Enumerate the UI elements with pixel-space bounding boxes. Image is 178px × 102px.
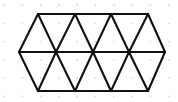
grid-dot	[21, 41, 23, 43]
grid-dot	[113, 22, 115, 24]
grid-dot	[113, 77, 115, 79]
grid-dot	[150, 41, 152, 43]
lower-diagonal-1	[38, 52, 56, 91]
grid-dot	[95, 41, 97, 43]
lower-right-outer-edge	[148, 52, 165, 91]
grid-dot	[168, 77, 170, 79]
grid-dot	[21, 96, 23, 98]
grid-dot	[168, 22, 170, 24]
grid-dot	[3, 4, 5, 6]
grid-dot	[3, 59, 5, 61]
grid-dot	[150, 77, 152, 79]
upper-diagonal-4	[93, 14, 111, 52]
grid-dot	[131, 59, 133, 61]
grid-dot	[168, 96, 170, 98]
grid-dot	[40, 4, 42, 6]
grid-dot	[168, 4, 170, 6]
grid-dot	[40, 59, 42, 61]
grid-dot	[113, 59, 115, 61]
upper-diagonal-5	[111, 14, 129, 52]
grid-dot	[95, 22, 97, 24]
grid-dot	[76, 22, 78, 24]
grid-dot	[131, 41, 133, 43]
grid-dot	[131, 4, 133, 6]
grid-dot	[113, 4, 115, 6]
grid-dot	[95, 59, 97, 61]
grid-dot	[3, 41, 5, 43]
grid-dot	[58, 4, 60, 6]
grid-dot	[150, 96, 152, 98]
grid-dot	[3, 96, 5, 98]
lower-diagonal-4	[93, 52, 111, 91]
grid-dot	[76, 59, 78, 61]
grid-dot	[58, 59, 60, 61]
triangle-tiling-shape	[0, 0, 178, 102]
grid-dot	[95, 77, 97, 79]
grid-dot	[131, 22, 133, 24]
grid-dot	[40, 41, 42, 43]
upper-diagonal-2	[56, 14, 75, 52]
grid-dot	[40, 77, 42, 79]
grid-dot	[3, 77, 5, 79]
grid-dot	[3, 22, 5, 24]
lower-diagonal-3	[75, 52, 93, 91]
lower-diagonal-6	[129, 52, 148, 91]
grid-dot	[40, 96, 42, 98]
grid-dot	[131, 96, 133, 98]
grid-dot	[21, 59, 23, 61]
grid-dot	[113, 96, 115, 98]
upper-diagonal-3	[75, 14, 93, 52]
grid-dot	[95, 96, 97, 98]
grid-dot	[21, 77, 23, 79]
grid-dot	[150, 22, 152, 24]
upper-diagonal-6	[129, 14, 148, 52]
grid-dot	[40, 22, 42, 24]
lower-left-outer-edge	[19, 52, 38, 91]
grid-dot	[131, 77, 133, 79]
grid-dot	[113, 41, 115, 43]
grid-dot	[76, 41, 78, 43]
grid-dot	[95, 4, 97, 6]
lower-diagonal-5	[111, 52, 129, 91]
upper-right-outer-edge	[148, 14, 165, 52]
grid-dot	[21, 22, 23, 24]
grid-dot	[76, 4, 78, 6]
upper-diagonal-1	[38, 14, 56, 52]
grid-dot	[58, 41, 60, 43]
grid-dot	[168, 41, 170, 43]
figure-canvas	[0, 0, 178, 102]
grid-dot	[76, 96, 78, 98]
grid-dot	[58, 77, 60, 79]
grid-dot	[150, 59, 152, 61]
lower-diagonal-2	[56, 52, 75, 91]
grid-dot	[150, 4, 152, 6]
grid-dot	[21, 4, 23, 6]
dot-grid	[0, 0, 178, 102]
grid-dot	[58, 96, 60, 98]
grid-dot	[58, 22, 60, 24]
grid-dot	[76, 77, 78, 79]
grid-dot	[168, 59, 170, 61]
upper-left-outer-edge	[19, 14, 38, 52]
